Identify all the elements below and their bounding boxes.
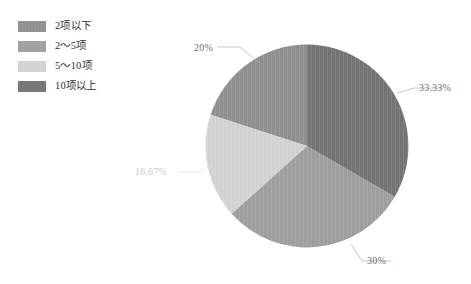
pct-label-20: 20% [194,43,213,53]
legend-item-2[interactable]: 5～10项 [18,56,148,76]
legend-label-3: 10项以上 [55,81,97,92]
legend-swatch-icon-1 [18,41,46,52]
pct-label-30: 30% [367,256,386,266]
pct-label-3333: 33.33% [419,83,451,93]
pie-graphic [205,44,409,248]
legend-label-1: 2～5项 [55,41,86,52]
pie-svg [205,44,409,248]
chart-legend: 2项以下 2～5项 5～10项 10项以上 [18,16,148,96]
legend-label-0: 2项以下 [55,21,91,32]
legend-item-1[interactable]: 2～5项 [18,36,148,56]
legend-swatch-icon-3 [18,81,46,92]
legend-swatch-icon-0 [18,21,46,32]
pie-texture-overlay [206,45,409,248]
pct-label-1667: 16.67% [135,167,167,177]
legend-item-0[interactable]: 2项以下 [18,16,148,36]
legend-item-3[interactable]: 10项以上 [18,76,148,96]
pie-chart-figure: 2项以下 2～5项 5～10项 10项以上 [0,0,471,284]
legend-swatch-icon-2 [18,61,46,72]
legend-label-2: 5～10项 [55,61,92,72]
